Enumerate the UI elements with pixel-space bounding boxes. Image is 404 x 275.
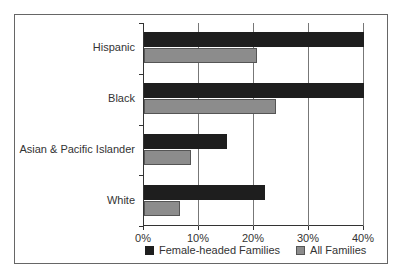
bar-female-headed bbox=[144, 32, 364, 47]
legend: Female-headed Families All Families bbox=[145, 244, 376, 256]
gridline bbox=[363, 23, 364, 226]
x-tick-label: 20% bbox=[242, 232, 264, 244]
x-tick-label: 0% bbox=[135, 232, 151, 244]
x-tick bbox=[253, 226, 254, 230]
plot-area bbox=[143, 23, 363, 226]
x-tick-label: 30% bbox=[297, 232, 319, 244]
legend-item-female: Female-headed Families bbox=[145, 244, 280, 256]
bar-all-families bbox=[144, 48, 257, 63]
x-tick bbox=[198, 226, 199, 230]
bar-all-families bbox=[144, 150, 191, 165]
bar-all-families bbox=[144, 201, 180, 216]
legend-label-female: Female-headed Families bbox=[159, 244, 280, 256]
gridline bbox=[308, 23, 309, 226]
legend-swatch-female bbox=[145, 246, 154, 255]
category-label: Asian & Pacific Islander bbox=[19, 143, 135, 155]
category-label: Hispanic bbox=[93, 41, 135, 53]
bar-female-headed bbox=[144, 134, 227, 149]
category-label: White bbox=[107, 194, 135, 206]
category-label: Black bbox=[108, 92, 135, 104]
y-tick bbox=[139, 175, 143, 176]
y-tick bbox=[139, 125, 143, 126]
legend-label-all: All Families bbox=[310, 244, 366, 256]
bar-female-headed bbox=[144, 83, 364, 98]
x-tick-label: 40% bbox=[352, 232, 374, 244]
legend-swatch-all bbox=[296, 246, 305, 255]
legend-item-all: All Families bbox=[296, 244, 366, 256]
x-tick bbox=[143, 226, 144, 230]
bar-female-headed bbox=[144, 185, 265, 200]
bar-all-families bbox=[144, 99, 276, 114]
y-tick bbox=[139, 23, 143, 24]
x-tick bbox=[308, 226, 309, 230]
x-tick bbox=[363, 226, 364, 230]
x-tick-label: 10% bbox=[187, 232, 209, 244]
y-tick bbox=[139, 74, 143, 75]
y-tick bbox=[139, 226, 143, 227]
